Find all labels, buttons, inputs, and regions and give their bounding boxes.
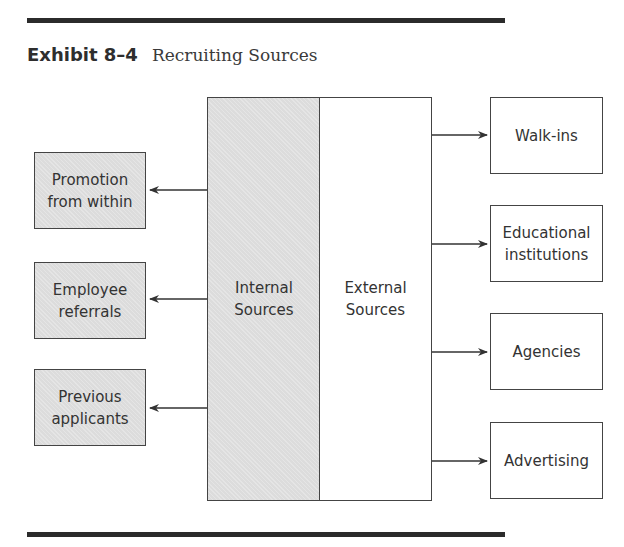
external-source-label: Advertising — [504, 450, 589, 472]
internal-source-label: Employee referrals — [50, 279, 130, 323]
bottom-rule — [27, 532, 505, 537]
external-sources-label: External Sources — [336, 277, 416, 321]
internal-source-previous-applicants: Previous applicants — [34, 369, 146, 446]
external-source-agencies: Agencies — [490, 313, 603, 390]
external-source-label: Educational institutions — [497, 222, 597, 266]
internal-source-label: Previous applicants — [45, 386, 135, 430]
external-sources-box: External Sources — [319, 97, 432, 501]
internal-sources-label: Internal Sources — [224, 277, 304, 321]
external-source-label: Walk-ins — [515, 125, 578, 147]
external-source-walk-ins: Walk-ins — [490, 97, 603, 174]
internal-source-label: Promotion from within — [40, 169, 140, 213]
external-source-educational: Educational institutions — [490, 205, 603, 282]
internal-source-promotion: Promotion from within — [34, 152, 146, 229]
external-source-advertising: Advertising — [490, 422, 603, 499]
external-source-label: Agencies — [513, 341, 581, 363]
internal-sources-box: Internal Sources — [207, 97, 321, 501]
internal-source-employee-referrals: Employee referrals — [34, 262, 146, 339]
